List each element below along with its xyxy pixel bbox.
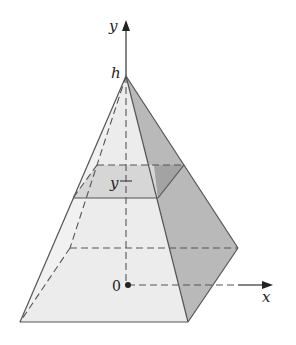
apex-label-h: h bbox=[111, 64, 121, 82]
y-axis-label: y bbox=[108, 17, 118, 35]
origin-point bbox=[125, 282, 131, 288]
section-label-y: y bbox=[109, 174, 119, 192]
origin-label: 0 bbox=[112, 278, 121, 294]
x-axis-label: x bbox=[262, 288, 271, 306]
pyramid-diagram: y h y 0 x bbox=[0, 0, 296, 345]
y-axis-arrow-icon bbox=[122, 20, 130, 31]
